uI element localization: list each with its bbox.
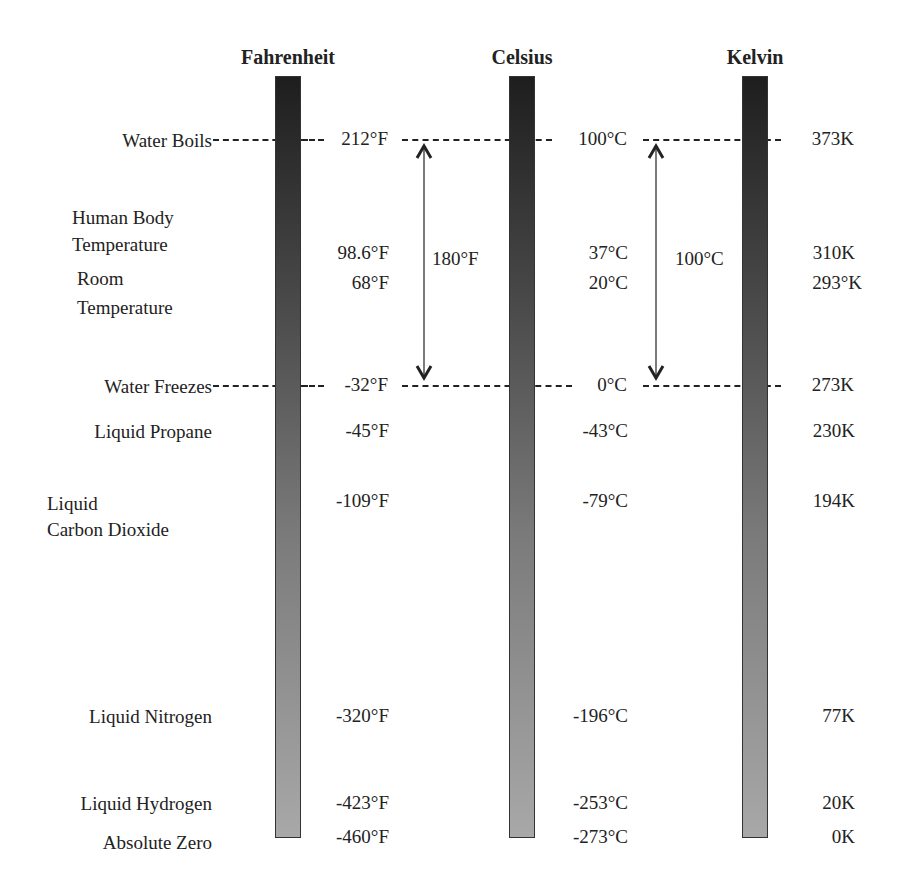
f-value-human-body: 98.6°F: [338, 242, 389, 264]
label-liquid-hydrogen: Liquid Hydrogen: [81, 790, 212, 817]
c-value-human-body: 37°C: [589, 242, 628, 264]
f-value-water-boils: 212°F: [339, 128, 390, 150]
k-value-liquid-hydrogen: 20K: [822, 792, 855, 814]
k-value-room: 293°K: [812, 272, 862, 294]
c-value-liquid-co2: -79°C: [582, 490, 628, 512]
k-value-liquid-nitrogen: 77K: [822, 705, 855, 727]
label-liquid-co2-2: Carbon Dioxide: [47, 516, 169, 543]
label-liquid-propane: Liquid Propane: [94, 418, 212, 445]
label-room-2: Temperature: [77, 294, 173, 321]
f-value-liquid-propane: -45°F: [346, 420, 390, 442]
k-value-liquid-propane: 230K: [813, 420, 855, 442]
f-value-room: 68°F: [352, 272, 389, 294]
label-liquid-co2-1: Liquid: [47, 490, 98, 517]
celsius-span-label: 100°C: [675, 248, 724, 270]
label-water-freezes: Water Freezes: [104, 373, 212, 400]
f-value-liquid-nitrogen: -320°F: [336, 705, 389, 727]
k-value-water-freezes: 273K: [810, 374, 856, 396]
c-value-liquid-propane: -43°C: [582, 420, 628, 442]
k-value-absolute-zero: 0K: [832, 826, 855, 848]
label-absolute-zero: Absolute Zero: [103, 829, 212, 856]
c-value-water-boils: 100°C: [576, 128, 629, 150]
label-human-body-1: Human Body: [72, 204, 174, 231]
c-value-room: 20°C: [589, 272, 628, 294]
f-value-water-freezes: -32°F: [343, 374, 391, 396]
fahrenheit-span-label: 180°F: [432, 248, 479, 270]
f-value-liquid-hydrogen: -423°F: [336, 792, 389, 814]
label-water-boils: Water Boils: [122, 127, 212, 154]
c-value-liquid-nitrogen: -196°C: [573, 705, 628, 727]
f-value-absolute-zero: -460°F: [336, 826, 389, 848]
k-value-human-body: 310K: [813, 242, 855, 264]
k-value-water-boils: 373K: [810, 128, 856, 150]
f-value-liquid-co2: -109°F: [336, 490, 389, 512]
c-value-water-freezes: 0°C: [595, 374, 629, 396]
c-value-absolute-zero: -273°C: [573, 826, 628, 848]
label-liquid-nitrogen: Liquid Nitrogen: [89, 703, 212, 730]
label-room-1: Room: [77, 265, 123, 292]
c-value-liquid-hydrogen: -253°C: [573, 792, 628, 814]
label-human-body-2: Temperature: [72, 231, 168, 258]
k-value-liquid-co2: 194K: [813, 490, 855, 512]
